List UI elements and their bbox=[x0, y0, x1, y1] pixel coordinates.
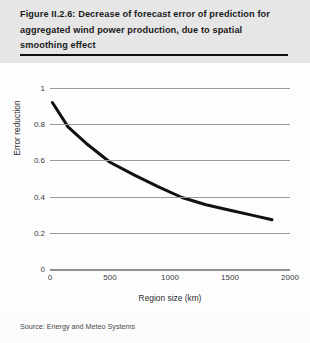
gridline bbox=[50, 88, 290, 89]
figure-page: Figure II.2.6: Decrease of forecast erro… bbox=[0, 0, 310, 343]
page-title: Figure II.2.6: Decrease of forecast erro… bbox=[20, 7, 290, 54]
y-tick-label: 0.4 bbox=[34, 192, 45, 201]
error-reduction-line bbox=[50, 88, 290, 269]
x-tick-label: 1000 bbox=[161, 273, 179, 282]
x-tick-label: 2000 bbox=[281, 273, 299, 282]
y-axis-label: Error reduction bbox=[12, 73, 22, 183]
title-divider bbox=[20, 54, 288, 56]
y-tick-label: 0.2 bbox=[34, 228, 45, 237]
y-tick-label: 0 bbox=[41, 265, 45, 274]
y-tick-label: 0.8 bbox=[34, 120, 45, 129]
y-tick-label: 1 bbox=[41, 84, 45, 93]
x-tick-label: 500 bbox=[103, 273, 116, 282]
gridline bbox=[50, 124, 290, 125]
chart-container: Error reduction 00.20.40.60.810500100015… bbox=[0, 63, 310, 313]
x-axis-line bbox=[50, 269, 290, 271]
plot-area: 00.20.40.60.810500100015002000 bbox=[50, 88, 290, 269]
figure-title-band: Figure II.2.6: Decrease of forecast erro… bbox=[0, 0, 310, 63]
source-note: Source: Energy and Meteo Systems bbox=[20, 322, 135, 331]
gridline bbox=[50, 233, 290, 234]
y-tick-label: 0.6 bbox=[34, 156, 45, 165]
x-tick-label: 0 bbox=[48, 273, 52, 282]
gridline bbox=[50, 197, 290, 198]
x-axis-label: Region size (km) bbox=[50, 293, 290, 303]
x-tick-label: 1500 bbox=[221, 273, 239, 282]
gridline bbox=[50, 160, 290, 161]
